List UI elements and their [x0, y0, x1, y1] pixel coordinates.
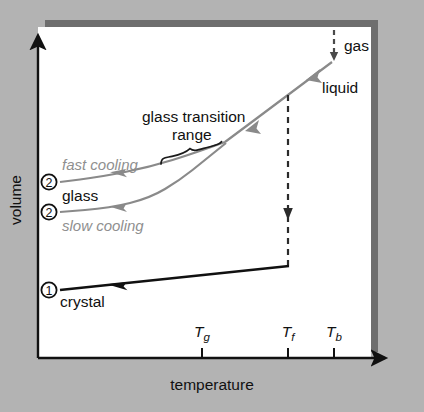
glass-transition-label-line2: range [172, 126, 212, 143]
volume-temperature-diagram: 122gasliquidglasscrystalfast coolingslow… [0, 0, 424, 412]
svg-text:1: 1 [46, 284, 53, 298]
svg-text:2: 2 [46, 176, 53, 190]
glass-label: glass [62, 187, 98, 204]
crystal-label: crystal [60, 293, 105, 310]
svg-text:2: 2 [46, 206, 53, 220]
y-axis-title: volume [7, 175, 24, 225]
slow-cooling-label: slow cooling [62, 217, 144, 234]
x-axis-title: temperature [170, 376, 254, 393]
glass-transition-label-line1: glass transition [142, 108, 245, 125]
gas-label: gas [344, 37, 369, 54]
liquid-label: liquid [322, 79, 358, 96]
fast-cooling-label: fast cooling [62, 156, 139, 173]
